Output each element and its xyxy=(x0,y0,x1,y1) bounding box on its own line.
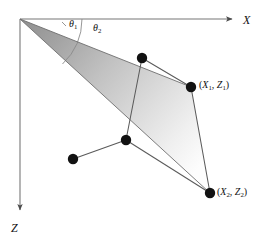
diagram-svg xyxy=(0,0,270,246)
p1-z-subscript: 1 xyxy=(222,84,225,91)
p2-z-subscript: 2 xyxy=(240,191,243,198)
p1-x-subscript: 1 xyxy=(208,84,211,91)
vertex-mid-dot[interactable] xyxy=(121,135,131,145)
p2-x-subscript: 2 xyxy=(226,191,229,198)
theta1-tick xyxy=(62,22,66,26)
point-label-p2: (X2, Z2) xyxy=(217,187,247,197)
theta1-subscript: 1 xyxy=(74,23,77,30)
p2-close-paren: ) xyxy=(244,186,247,197)
vertex-left-dot[interactable] xyxy=(68,154,78,164)
z-axis-label: Z xyxy=(11,222,18,234)
vertex-p1-dot[interactable] xyxy=(186,82,196,92)
point-label-p1: (X1, Z1) xyxy=(199,80,229,90)
vertex-top-dot[interactable] xyxy=(137,53,147,63)
theta1-label: θ1 xyxy=(69,19,77,29)
p1-close-paren: ) xyxy=(226,79,229,90)
theta2-label: θ2 xyxy=(93,23,101,33)
x-axis-label: X xyxy=(243,14,250,26)
theta2-subscript: 2 xyxy=(98,27,101,34)
vertex-p2-dot[interactable] xyxy=(205,188,215,198)
figure-canvas: X Z θ1 θ2 (X1, Z1) (X2, Z2) xyxy=(0,0,270,246)
